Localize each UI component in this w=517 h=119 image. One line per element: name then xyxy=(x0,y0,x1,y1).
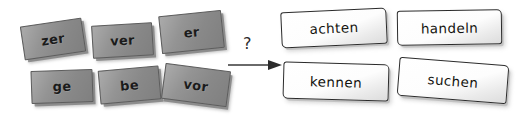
verb-card-label: handeln xyxy=(421,19,479,36)
verb-card-handeln[interactable]: handeln xyxy=(397,9,502,45)
prefix-card-be[interactable]: be xyxy=(98,65,162,104)
verb-card-kennen[interactable]: kennen xyxy=(283,62,390,102)
prefix-card-label: ver xyxy=(110,32,135,48)
right-arrow-icon xyxy=(228,58,284,72)
prefix-card-label: er xyxy=(183,24,200,41)
verb-card-label: suchen xyxy=(427,71,479,91)
prefix-card-label: ge xyxy=(52,79,71,95)
verb-card-label: kennen xyxy=(310,73,362,90)
verb-card-achten[interactable]: achten xyxy=(280,8,388,49)
verb-card-suchen[interactable]: suchen xyxy=(397,57,510,105)
prefix-card-vor[interactable]: vor xyxy=(161,63,231,107)
transformation-arrow-group: ? xyxy=(228,36,284,78)
prefix-card-label: vor xyxy=(183,76,209,94)
prefix-card-er[interactable]: er xyxy=(158,10,225,54)
verb-card-label: achten xyxy=(309,19,358,37)
question-mark-label: ? xyxy=(243,34,252,53)
prefix-card-zer[interactable]: zer xyxy=(20,18,86,61)
prefix-card-label: be xyxy=(120,77,140,94)
worksheet-exercise-image: zer ver er ge be vor ? achten handeln ke… xyxy=(0,0,517,119)
prefix-card-label: zer xyxy=(40,30,66,48)
prefix-card-ver[interactable]: ver xyxy=(91,22,154,59)
prefix-card-ge[interactable]: ge xyxy=(30,69,93,104)
